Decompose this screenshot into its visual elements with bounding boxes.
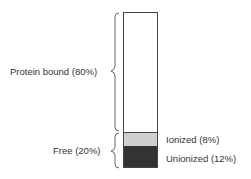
free-brace-icon <box>111 133 119 168</box>
unionized-label: Unionized (12%) <box>166 153 236 164</box>
free-label: Free (20%) <box>53 145 101 156</box>
protein-bound-brace-icon <box>111 13 119 131</box>
protein-bound-label: Protein bound (80%) <box>10 66 97 77</box>
ionized-label: Ionized (8%) <box>166 134 219 145</box>
